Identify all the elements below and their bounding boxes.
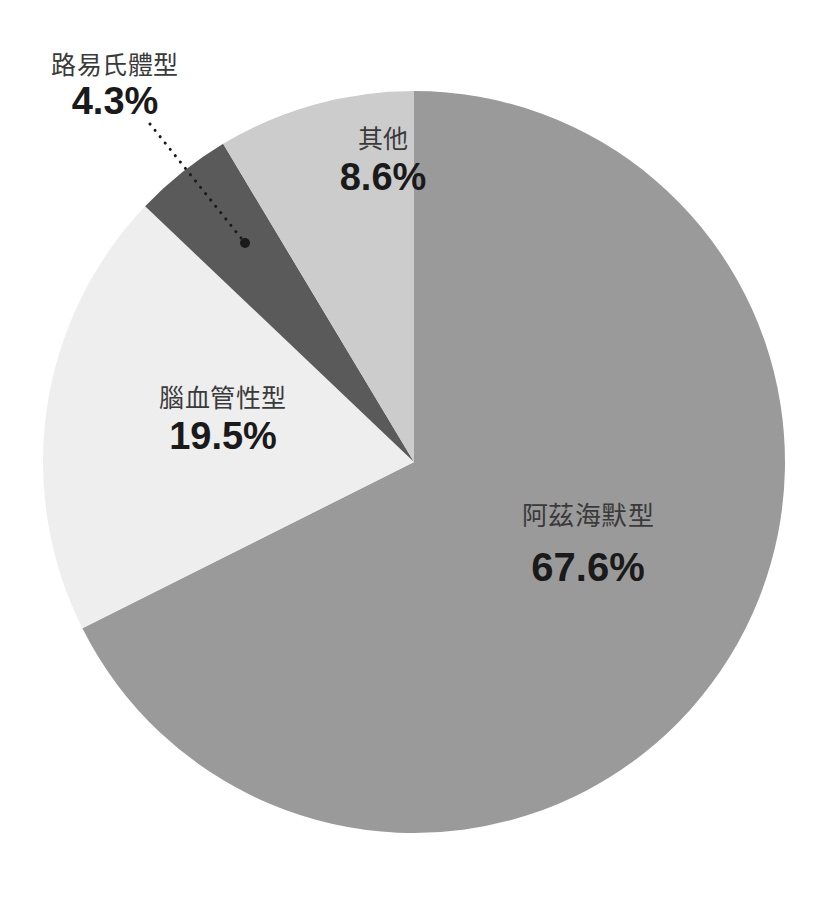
slice-label-lewy-body: 路易氏體型 4.3% [10, 52, 220, 122]
slice-label-alzheimer-value: 67.6% [468, 546, 708, 588]
slice-label-other-name: 其他 [293, 126, 473, 152]
slice-label-vascular: 腦血管性型 19.5% [108, 385, 338, 457]
slice-label-lewy-body-name: 路易氏體型 [10, 52, 220, 78]
leader-dot-marker [240, 238, 250, 248]
pie-chart: 路易氏體型 4.3% 其他 8.6% 腦血管性型 19.5% 阿茲海默型 67.… [0, 0, 828, 898]
pie-slices [43, 91, 785, 833]
slice-label-lewy-body-value: 4.3% [10, 82, 220, 122]
slice-label-other-value: 8.6% [293, 158, 473, 198]
slice-label-alzheimer-name: 阿茲海默型 [468, 503, 708, 530]
slice-label-vascular-name: 腦血管性型 [108, 385, 338, 411]
slice-label-alzheimer: 阿茲海默型 67.6% [468, 503, 708, 588]
slice-label-other: 其他 8.6% [293, 126, 473, 198]
slice-label-vascular-value: 19.5% [108, 417, 338, 457]
